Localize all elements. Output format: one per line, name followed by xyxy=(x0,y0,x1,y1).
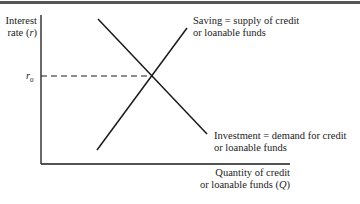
x-axis-label-line1: Quantity of credit xyxy=(180,167,290,179)
equilibrium-rate-label: r0 xyxy=(26,70,34,86)
saving-label-line1: Saving = supply of credit xyxy=(193,15,299,27)
y-axis-label-line2: rate (r) xyxy=(0,27,37,39)
saving-curve-label: Saving = supply of credit or loanable fu… xyxy=(193,15,299,39)
investment-curve-label: Investment = demand for credit or loanab… xyxy=(214,130,346,154)
saving-supply-curve xyxy=(97,28,187,150)
y-axis-label-line1: Interest xyxy=(0,15,37,27)
investment-label-line1: Investment = demand for credit xyxy=(214,130,346,142)
x-axis-label: Quantity of credit or loanable funds (Q) xyxy=(180,167,290,191)
x-axis-label-line2: or loanable funds (Q) xyxy=(180,179,290,191)
y-axis-label: Interest rate (r) xyxy=(0,15,37,39)
saving-label-line2: or loanable funds xyxy=(193,27,299,39)
investment-label-line2: or loanable funds xyxy=(214,142,346,154)
